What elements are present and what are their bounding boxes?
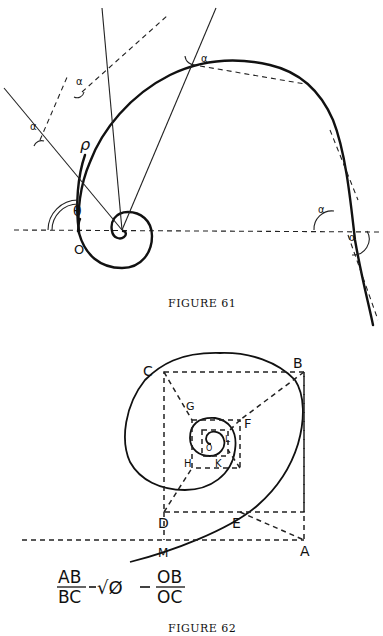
radius-vector-right [122,8,216,230]
polar-axis-dashed [14,230,383,232]
equiangular-spiral-curve [78,61,373,325]
diag-B-F [240,372,304,420]
origin-label: O [74,242,84,257]
figure-61-caption: FIGURE 61 [168,297,236,310]
point-F-label: F [244,416,251,431]
tangent-top-right [200,66,305,84]
formula-lhs-denominator: BC [58,587,81,607]
theta-label: θ [73,203,82,219]
alpha-arc-top-left [74,92,84,98]
point-M-label: M [158,546,168,560]
point-L-label: L [225,434,230,444]
formula-rhs-numerator: OB [157,567,182,587]
golden-spiral-curve [125,353,303,562]
alpha-label-right-upper: α [318,204,325,215]
radius-vector-rho [102,8,122,230]
square-BCDE [164,372,304,512]
formula-lhs-numerator: AB [58,567,81,587]
alpha-label-top-right: α [201,53,208,64]
diagram-canvas: θ ρ O α α α α α FIGURE 61 C B G F L O [0,0,383,636]
point-O-label: O [206,444,212,453]
point-E-label: E [232,515,241,531]
golden-ratio-formula: AB BC √Ø OB OC [57,567,185,607]
point-A-label: A [300,543,310,559]
point-B-label: B [293,355,303,371]
alpha-label-left: α [30,121,37,132]
diag-E-A [240,512,304,540]
rho-label: ρ [80,135,90,154]
figure-61: θ ρ O α α α α α FIGURE 61 [4,8,383,325]
tangent-left [40,75,68,140]
alpha-arc-left [34,141,44,146]
point-G-label: G [186,400,195,413]
alpha-label-top-left: α [76,76,83,87]
formula-rhs-denominator: OC [157,587,182,607]
point-D-label: D [158,515,169,531]
tangent-right-upper [330,130,358,200]
tangent-right-lower [348,235,378,320]
point-C-label: C [143,363,153,379]
formula-sqrt-phi: √Ø [97,577,123,598]
point-K-label: K [215,458,222,469]
figure-62-caption: FIGURE 62 [168,622,236,635]
point-H-label: H [184,458,192,469]
figure-62: C B G F L O H K D E M A AB BC √Ø OB OC F… [22,353,310,635]
equiangular-spiral-inner [79,212,152,268]
tangent-top-left [82,16,167,92]
alpha-label-right-lower: α [349,232,356,243]
